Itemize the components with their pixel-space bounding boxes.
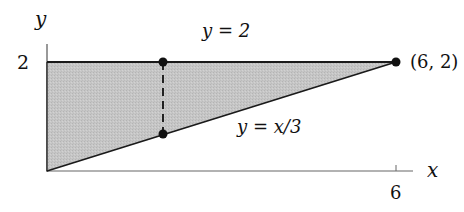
strip-bottom-point: [159, 130, 168, 139]
y-axis-label: y: [34, 7, 47, 31]
x-axis-label: x: [427, 158, 438, 182]
x-tick-label: 6: [390, 182, 401, 203]
y-tick-label: 2: [17, 51, 29, 73]
vertex-label: (6, 2): [410, 51, 458, 72]
bottom-curve-label: y = x/3: [236, 116, 301, 137]
vertex-point: [392, 58, 401, 67]
strip-top-point: [159, 58, 168, 67]
top-curve-label: y = 2: [201, 20, 250, 41]
region-diagram: y 2 y = 2 (6, 2) y = x/3 x 6: [0, 0, 464, 212]
